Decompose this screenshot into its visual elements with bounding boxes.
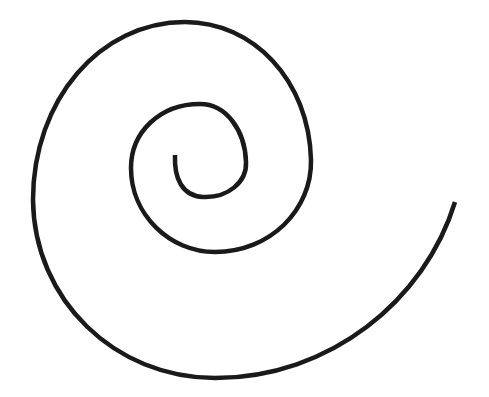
spiral-diagram [0, 0, 489, 397]
background [0, 0, 489, 397]
